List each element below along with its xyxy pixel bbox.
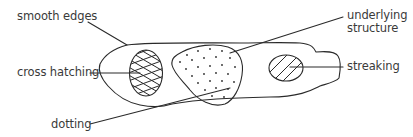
label-streaking: streaking [347,60,400,73]
leader-smooth-edges [88,22,127,45]
specimen-outline [99,43,340,107]
label-smooth-edges: smooth edges [17,10,97,23]
leader-dotting [90,88,230,124]
leader-underlying-structure [230,17,343,53]
dotting-region [172,45,243,105]
label-cross-hatching: cross hatching [17,66,99,79]
label-dotting: dotting [51,118,91,131]
label-structure: structure [347,22,398,35]
